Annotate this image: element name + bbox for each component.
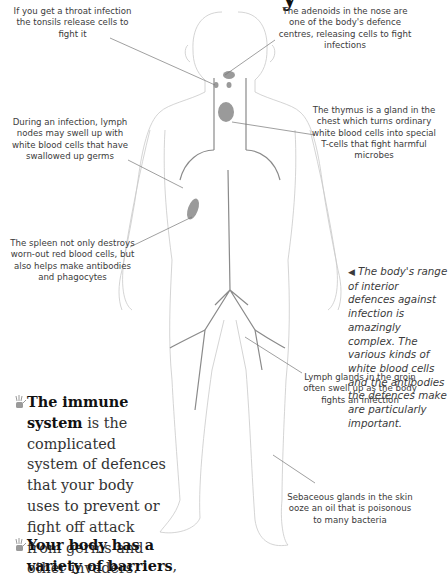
label-tonsils: If you get a throat infection the tonsil… [10,6,135,40]
figure-caption: ◀The body's range of interior defences a… [348,265,448,430]
caption-text: The body's range of interior defences ag… [348,265,447,429]
caption-arrow-icon: ◀ [348,267,355,277]
label-thymus: The thymus is a gland in the chest which… [308,105,440,161]
label-spleen: The spleen not only destroys worn-out re… [10,238,135,283]
paragraph-heading: Your body has a variety of barriers [27,536,173,574]
paragraph-barriers: Your body has a variety of barriers, [27,535,187,575]
paragraph-text: , [173,558,178,574]
label-sebaceous: Sebaceous glands in the skin ooze an oil… [285,492,415,526]
label-adenoids: The adenoids in the nose are one of the … [275,6,415,51]
label-lymph-nodes: During an infection, lymph nodes may swe… [5,117,135,162]
